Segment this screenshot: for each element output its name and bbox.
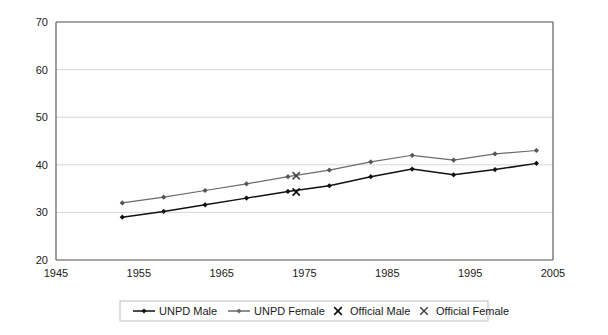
data-point-unpd-male	[244, 196, 249, 201]
data-point-unpd-male	[368, 174, 373, 179]
data-point-unpd-female	[451, 157, 456, 162]
y-tick-label: 20	[36, 254, 48, 266]
y-tick-label: 60	[36, 64, 48, 76]
y-tick-label: 30	[36, 206, 48, 218]
line-chart: 70 60 50 40 30 20 1945 1955 1965 1975 19…	[0, 0, 608, 335]
x-tick-label: 1995	[458, 267, 482, 279]
series-line-unpd-female	[122, 151, 536, 203]
x-tick-label: 2005	[541, 267, 565, 279]
plot-border	[56, 22, 553, 260]
data-point-unpd-female	[368, 159, 373, 164]
chart-legend: UNPD MaleUNPD FemaleOfficial MaleOfficia…	[120, 301, 509, 321]
data-point-unpd-female	[244, 181, 249, 186]
x-tick-label: 1965	[209, 267, 233, 279]
data-point-unpd-female	[327, 167, 332, 172]
data-point-unpd-male	[410, 166, 415, 171]
data-series-layer	[120, 148, 539, 220]
data-point-unpd-male	[120, 215, 125, 220]
y-axis-tick-labels: 70 60 50 40 30 20	[36, 16, 48, 266]
legend-item-label: UNPD Male	[159, 305, 217, 317]
x-tick-label: 1945	[44, 267, 68, 279]
x-axis-tick-labels: 1945 1955 1965 1975 1985 1995 2005	[44, 267, 565, 279]
y-tick-label: 40	[36, 159, 48, 171]
x-tick-label: 1985	[375, 267, 399, 279]
gridlines	[56, 70, 553, 213]
legend-item-label: UNPD Female	[254, 305, 325, 317]
data-point-unpd-male	[285, 189, 290, 194]
legend-item-label: Official Female	[436, 305, 509, 317]
x-tick-label: 1955	[127, 267, 151, 279]
data-point-unpd-female	[534, 148, 539, 153]
legend-item-label: Official Male	[350, 305, 410, 317]
y-tick-label: 50	[36, 111, 48, 123]
data-point-unpd-male	[451, 172, 456, 177]
data-point-unpd-female	[410, 153, 415, 158]
data-point-unpd-male	[327, 183, 332, 188]
x-tick-label: 1975	[292, 267, 316, 279]
data-point-unpd-male	[161, 209, 166, 214]
data-point-unpd-female	[161, 195, 166, 200]
data-point-unpd-female	[120, 200, 125, 205]
data-point-official-male	[293, 188, 300, 195]
data-point-unpd-female	[203, 188, 208, 193]
y-tick-label: 70	[36, 16, 48, 28]
data-point-unpd-male	[203, 202, 208, 207]
legend-items: UNPD MaleUNPD FemaleOfficial MaleOfficia…	[133, 305, 509, 317]
chart-container: 70 60 50 40 30 20 1945 1955 1965 1975 19…	[0, 0, 608, 335]
data-point-unpd-female	[285, 174, 290, 179]
data-point-unpd-male	[492, 167, 497, 172]
data-point-unpd-female	[492, 151, 497, 156]
